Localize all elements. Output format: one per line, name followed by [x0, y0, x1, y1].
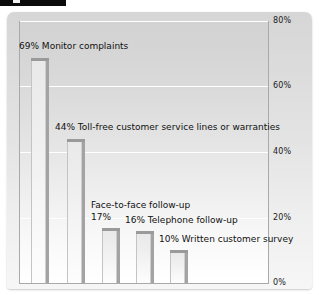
bar-side-shade	[117, 231, 120, 283]
datalabel-toll-free: 44% Toll-free customer service lines or …	[55, 122, 280, 133]
bar-side-shade	[185, 253, 188, 283]
y-tick-40: 40%	[273, 147, 291, 156]
y-tick-60: 60%	[273, 81, 291, 90]
bar-face	[170, 253, 185, 283]
y-tick-20: 20%	[273, 213, 291, 222]
bar-face	[102, 231, 117, 283]
bar-monitor-complaints[interactable]	[31, 58, 49, 283]
datalabel-telephone-follow-up: 16% Telephone follow-up	[125, 215, 238, 226]
bar-face	[67, 142, 82, 283]
bar-telephone-follow-up[interactable]	[136, 231, 154, 283]
datalabel-monitor-complaints: 69% Monitor complaints	[19, 41, 128, 52]
gridline-40	[20, 152, 268, 153]
bar-side-shade	[151, 234, 154, 283]
gridline-60	[20, 86, 268, 87]
bar-side-shade	[46, 61, 49, 283]
bar-face	[136, 234, 151, 283]
bar-written-survey[interactable]	[170, 250, 188, 283]
header-notch	[13, 0, 20, 3]
y-tick-0: 0%	[273, 278, 286, 287]
bar-toll-free[interactable]	[67, 139, 85, 283]
gridline-80	[20, 21, 268, 22]
datalabel-face-to-face-name: Face-to-face follow-up	[91, 200, 190, 211]
y-tick-80: 80%	[273, 16, 291, 25]
datalabel-face-to-face-value: 17%	[91, 212, 111, 223]
cropped-header-bar	[0, 0, 66, 6]
bar-side-shade	[82, 142, 85, 283]
bar-face	[31, 61, 46, 283]
chart-figure: 80% 60% 40% 20% 0% 69% Monitor complaint…	[7, 12, 312, 289]
datalabel-written-survey: 10% Written customer survey	[159, 234, 293, 245]
bar-face-to-face[interactable]	[102, 228, 120, 283]
